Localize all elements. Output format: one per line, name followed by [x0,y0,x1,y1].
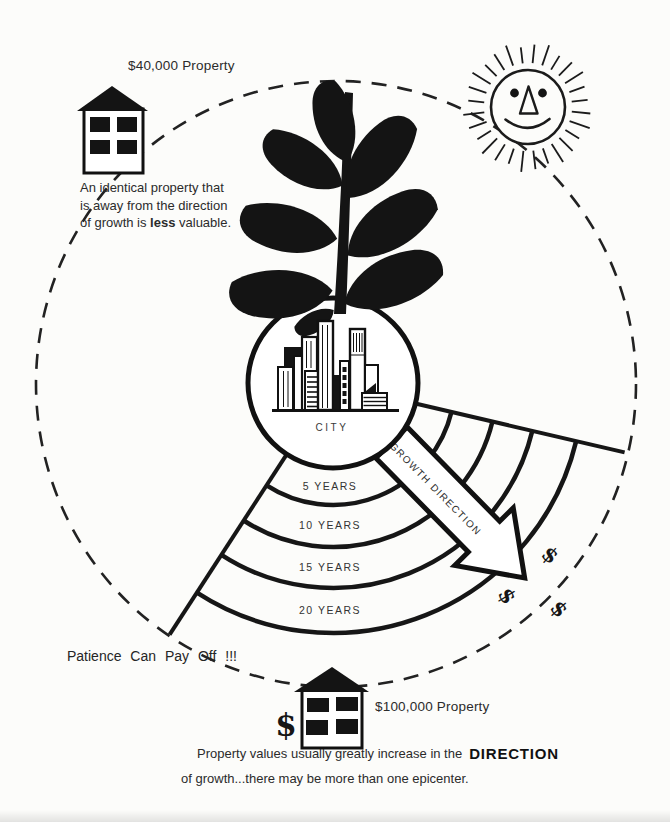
dollar-sign-icon: $ [545,595,573,623]
sun-ray [559,62,572,75]
sun-ray [468,101,484,103]
sun-ray [569,87,584,92]
sun-ray [565,130,579,138]
ring-label-10-years: 10 YEARS [299,519,361,531]
ring-label-5-years: 5 YEARS [303,480,358,492]
house-icon-top [77,86,148,173]
sun-ray [570,121,590,128]
caption-top: An identical property that is away from … [80,179,231,232]
dollar-sign-icon: $ [275,707,297,743]
sun-ray [482,138,497,153]
sun-ray [572,112,591,114]
dollar-sign-icon: $ [537,540,564,569]
sun-ray [469,122,487,128]
price-label-top: $40,000 Property [128,58,235,73]
sun-ray [477,131,491,140]
growth-plant-icon [225,81,448,339]
sun-ray [469,87,487,93]
sun-ray [552,144,563,162]
patience-label: Patience Can Pay Off !!! [67,648,237,664]
less-emphasis: less [150,215,175,230]
dollar-sign-icon: $ [493,583,522,609]
sun-ray [559,138,572,151]
ring-label-15-years: 15 YEARS [299,561,361,573]
caption-bottom-line2: of growth...there may be more than one e… [181,771,469,786]
sun-ray [494,54,504,70]
sun-ray [506,46,513,66]
caption-top-line2: is away from the direction [80,197,231,215]
sun-ray [565,72,583,83]
sun-eye-right [538,89,547,98]
sun-ray [543,148,548,163]
sun-ray [533,45,535,64]
page: GROWTH DIRECTION [0,0,670,822]
direction-emphasis: DIRECTION [469,745,559,762]
caption-bottom-line1: Property values usually greatly increase… [197,745,559,762]
sun-eye-left [510,89,519,98]
sun-ray [463,112,484,115]
sun-ray [509,149,514,164]
city-label: CITY [316,422,349,433]
sun-face [491,70,565,144]
sun-ray [473,73,491,84]
sun-ray [533,151,535,169]
sun-icon [463,45,590,172]
ring-label-20-years: 20 YEARS [299,604,361,616]
sun-ray [551,56,559,70]
sun-ray [572,100,588,102]
growth-diagram: GROWTH DIRECTION [0,0,670,822]
house-icon-bottom: $ [275,667,369,748]
sun-ray [485,65,496,76]
sun-ray [542,45,549,65]
price-label-bottom: $100,000 Property [375,699,489,714]
sun-ray [495,144,505,160]
sun-ray [521,151,523,172]
caption-top-line3: of growth is less valuable. [80,214,231,232]
sun-ray [521,47,523,63]
caption-top-line1: An identical property that [80,179,231,197]
